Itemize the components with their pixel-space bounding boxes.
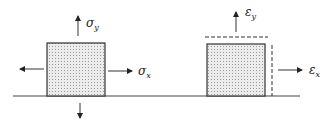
sigma-x-label: σx (138, 65, 151, 80)
stressed-element (47, 43, 105, 96)
eps-y-label: εy (245, 6, 256, 21)
eps-x-label: εx (309, 64, 320, 79)
sigma-y-label: σy (86, 17, 99, 32)
strained-element (207, 44, 265, 96)
diagram-canvas (0, 0, 327, 130)
